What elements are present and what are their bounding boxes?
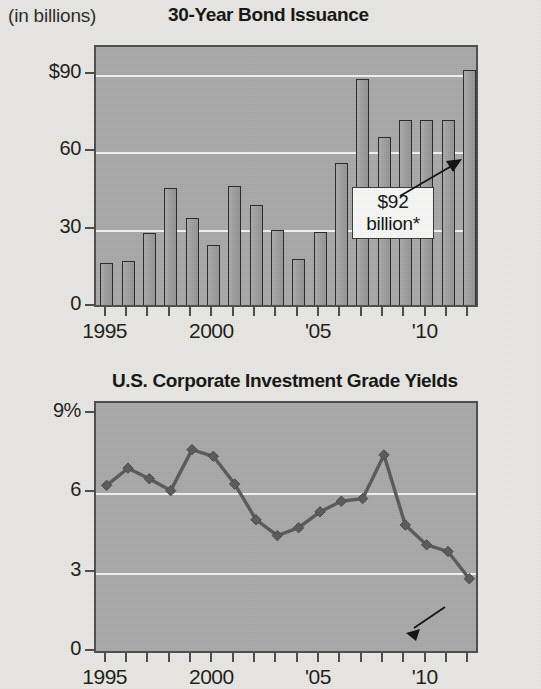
corporate-yields-chart-panel: U.S. Corporate Investment Grade Yields 0…: [0, 345, 541, 689]
line-callout-arrow-icon: [0, 345, 541, 689]
bond-issuance-chart-panel: (in billions) 30-Year Bond Issuance 0306…: [0, 0, 541, 345]
bars-callout-arrow-icon: [0, 0, 541, 345]
